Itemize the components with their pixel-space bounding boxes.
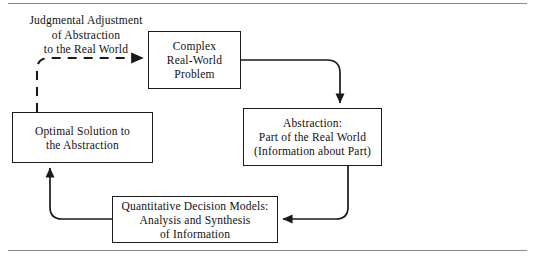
- node-complex-line-2: Real-World: [167, 53, 222, 67]
- node-abstraction-line-2: Part of the Real World: [259, 130, 366, 144]
- node-abstraction-line-3: (Information about Part): [254, 144, 371, 158]
- connector-abstraction-to-quantitative: [283, 166, 348, 219]
- diagram-figure: Judgmental Adjustment of Abstraction to …: [0, 0, 535, 259]
- judgmental-adjustment-label: Judgmental Adjustment of Abstraction to …: [18, 13, 154, 57]
- node-optimal-line-2: the Abstraction: [46, 138, 119, 152]
- node-complex-real-world-problem: Complex Real-World Problem: [148, 31, 241, 89]
- connector-complex-to-abstraction: [241, 60, 340, 103]
- node-quantitative-decision-models: Quantitative Decision Models: Analysis a…: [112, 196, 278, 243]
- node-quant-line-1: Quantitative Decision Models:: [122, 199, 269, 213]
- connector-quantitative-to-optimal: [50, 168, 112, 219]
- node-optimal-line-1: Optimal Solution to: [35, 124, 130, 138]
- node-quant-line-2: Analysis and Synthesis: [139, 213, 250, 227]
- caption-line-3: to the Real World: [18, 42, 154, 57]
- node-quant-line-3: of Information: [160, 227, 230, 241]
- node-complex-line-3: Problem: [174, 67, 214, 81]
- node-complex-line-1: Complex: [173, 39, 217, 53]
- connector-optimal-to-complex: [37, 58, 143, 112]
- node-optimal-solution: Optimal Solution to the Abstraction: [12, 112, 153, 163]
- node-abstraction-line-1: Abstraction:: [283, 116, 342, 130]
- caption-line-1: Judgmental Adjustment: [18, 13, 154, 28]
- node-abstraction: Abstraction: Part of the Real World (Inf…: [243, 108, 382, 166]
- caption-line-2: of Abstraction: [18, 28, 154, 43]
